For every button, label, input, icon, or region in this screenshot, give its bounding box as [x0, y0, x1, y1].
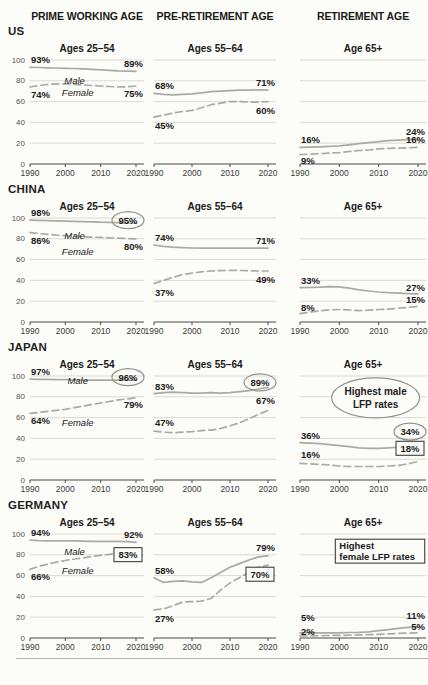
male-end-value-label: 79%	[256, 542, 276, 553]
x-axis: 1990200020102020	[291, 638, 428, 652]
column-header-pre-retirement-age: PRE-RETIREMENT AGE	[146, 10, 282, 22]
y-tick-label: 80	[16, 76, 25, 85]
country-section-germany: GERMANY Ages 25–541990200020102020100806…	[0, 499, 428, 654]
x-tick-label: 2000	[330, 168, 349, 178]
female-start-value-label: 8%	[301, 302, 315, 313]
male-end-value-label: 89%	[124, 58, 144, 69]
x-tick-label: 2000	[330, 326, 349, 336]
chart-japan-25-54: Ages 25–541990200020102020100806040200Ma…	[0, 356, 146, 496]
y-tick-label: 100	[12, 530, 26, 539]
country-section-china: CHINA Ages 25–54199020002010202010080604…	[0, 183, 428, 338]
male-start-value-label: 36%	[301, 430, 321, 441]
y-tick-label: 20	[16, 613, 25, 622]
x-tick-label: 2010	[91, 326, 110, 336]
female-line	[300, 147, 418, 154]
male-end-value-label: 95%	[118, 215, 138, 226]
y-tick-label: 0	[21, 318, 26, 327]
female-start-value-label: 37%	[155, 287, 175, 298]
x-tick-label: 2010	[221, 642, 240, 652]
male-start-value-label: 5%	[301, 612, 315, 623]
x-tick-label: 1990	[145, 484, 164, 494]
female-end-value-label: 49%	[256, 274, 276, 285]
x-tick-label: 2020	[259, 168, 278, 178]
male-start-value-label: 68%	[155, 80, 175, 91]
x-tick-label: 1990	[291, 642, 310, 652]
country-section-us: US Ages 25–54199020002010202010080604020…	[0, 25, 428, 180]
bottom-rule	[16, 658, 428, 659]
male-end-value-label: 71%	[256, 77, 276, 88]
x-tick-label: 2010	[91, 168, 110, 178]
x-tick-label: 1990	[145, 326, 164, 336]
y-tick-label: 20	[16, 139, 25, 148]
chart-china-55-64: Ages 55–64199020002010202074%71%37%49%	[146, 198, 282, 338]
female-end-value-label: 83%	[118, 549, 138, 560]
charts-row-germany: Ages 25–541990200020102020100806040200Ma…	[0, 514, 428, 654]
y-tick-label: 20	[16, 297, 25, 306]
male-series-label: Male	[64, 75, 85, 86]
chart-title: Ages 55–64	[187, 517, 242, 528]
y-tick-label: 60	[16, 255, 25, 264]
male-start-value-label: 74%	[155, 232, 175, 243]
female-start-value-label: 66%	[31, 571, 51, 582]
y-tick-label: 100	[12, 372, 26, 381]
x-axis: 1990200020102020	[291, 164, 428, 178]
female-end-value-label: 5%	[411, 621, 425, 632]
male-end-value-label: 92%	[124, 529, 144, 540]
callout-annotation: Highest maleLFP rates	[332, 378, 420, 418]
y-tick-label: 0	[21, 634, 26, 643]
callout-text-line2: female LFP rates	[339, 551, 415, 562]
x-tick-label: 2020	[259, 484, 278, 494]
male-line	[154, 245, 268, 248]
female-line	[300, 461, 418, 466]
female-end-value-label: 67%	[256, 395, 276, 406]
male-end-value-label: 71%	[256, 235, 276, 246]
x-axis: 1990200020102020	[21, 638, 146, 652]
female-start-value-label: 64%	[31, 415, 51, 426]
x-tick-label: 2020	[409, 168, 428, 178]
chart-us-65: Age 65+199020002010202016%24%9%16%	[282, 40, 428, 180]
female-start-value-label: 27%	[155, 613, 175, 624]
male-end-value-label: 11%	[407, 610, 426, 621]
female-line	[154, 270, 268, 283]
female-series-label: Female	[62, 87, 94, 98]
male-line	[30, 67, 136, 71]
male-start-value-label: 33%	[301, 275, 321, 286]
x-tick-label: 2010	[91, 642, 110, 652]
x-tick-label: 2000	[56, 484, 75, 494]
y-tick-label: 40	[16, 592, 25, 601]
callout-annotation: Highestfemale LFP rates	[335, 539, 424, 563]
male-start-value-label: 94%	[31, 527, 51, 538]
male-start-value-label: 83%	[155, 381, 175, 392]
chart-us-25-54: Ages 25–541990200020102020100806040200Ma…	[0, 40, 146, 180]
male-end-value-label: 34%	[400, 426, 420, 437]
chart-title: Age 65+	[344, 201, 383, 212]
y-tick-label: 60	[16, 413, 25, 422]
gridlines	[30, 60, 144, 143]
female-line	[300, 306, 418, 313]
column-header-retirement-age: RETIREMENT AGE	[282, 10, 428, 22]
female-start-value-label: 74%	[31, 89, 51, 100]
x-tick-label: 1990	[145, 168, 164, 178]
x-tick-label: 2000	[330, 484, 349, 494]
male-line	[30, 540, 136, 542]
chart-germany-25-54: Ages 25–541990200020102020100806040200Ma…	[0, 514, 146, 654]
male-line	[300, 287, 418, 294]
chart-japan-65: Age 65+1990200020102020Highest maleLFP r…	[282, 356, 428, 496]
chart-china-65: Age 65+199020002010202033%27%8%15%	[282, 198, 428, 338]
x-tick-label: 2000	[56, 326, 75, 336]
x-tick-label: 2010	[369, 484, 388, 494]
female-series-label: Female	[62, 565, 94, 576]
y-tick-label: 40	[16, 434, 25, 443]
x-tick-label: 2020	[409, 326, 428, 336]
female-series-label: Female	[62, 417, 94, 428]
female-start-value-label: 86%	[31, 235, 51, 246]
x-tick-label: 2010	[369, 642, 388, 652]
male-series-label: Male	[64, 546, 85, 557]
country-label-germany: GERMANY	[0, 499, 428, 514]
callout-text-line1: Highest	[339, 540, 375, 551]
gridlines	[30, 218, 144, 301]
female-end-value-label: 16%	[406, 134, 426, 145]
y-axis-labels: 100806040200	[12, 530, 26, 643]
x-tick-label: 2000	[56, 642, 75, 652]
x-tick-label: 2000	[330, 642, 349, 652]
